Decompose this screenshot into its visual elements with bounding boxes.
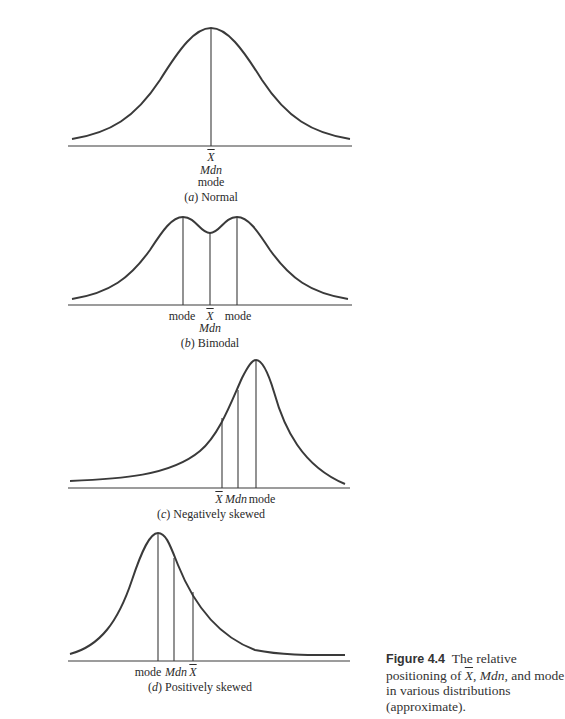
caption-d: (d) Positively skewed <box>148 681 252 694</box>
caption-b-letter: b <box>185 336 191 350</box>
label-a-mode: mode <box>198 176 225 188</box>
label-d-mode: mode <box>135 666 162 678</box>
label-b-median: Mdn <box>199 322 221 334</box>
caption-b: (b) Bimodal <box>181 337 239 350</box>
caption-b-text: Bimodal <box>198 336 239 350</box>
label-a-mean: X <box>207 151 214 163</box>
negatively-skewed-curve <box>70 360 345 484</box>
figure-graphics <box>0 0 565 719</box>
caption-xbar: X <box>465 668 473 683</box>
caption-mdn: Mdn <box>480 668 505 683</box>
caption-d-text: Positively skewed <box>165 680 252 694</box>
label-b-mode-right: mode <box>225 310 252 322</box>
caption-a: (a) Normal <box>184 191 238 204</box>
caption-d-letter: d <box>152 680 158 694</box>
caption-c: (c) Negatively skewed <box>157 508 265 521</box>
caption-a-letter: a <box>188 190 194 204</box>
label-c-median: Mdn <box>225 493 247 505</box>
caption-a-text: Normal <box>201 190 238 204</box>
label-d-median: Mdn <box>165 666 187 678</box>
label-d-mean: X <box>189 666 196 678</box>
positively-skewed-curve <box>70 533 345 655</box>
caption-mid: , <box>473 668 480 683</box>
caption-c-text: Negatively skewed <box>173 507 265 521</box>
figure-caption: Figure 4.4 The relative positioning of X… <box>386 651 565 714</box>
label-c-mean: X <box>215 493 222 505</box>
label-b-mode-left: mode <box>169 310 196 322</box>
label-c-mode: mode <box>249 493 276 505</box>
figure-number: Figure 4.4 <box>386 652 445 666</box>
caption-c-letter: c <box>161 507 166 521</box>
